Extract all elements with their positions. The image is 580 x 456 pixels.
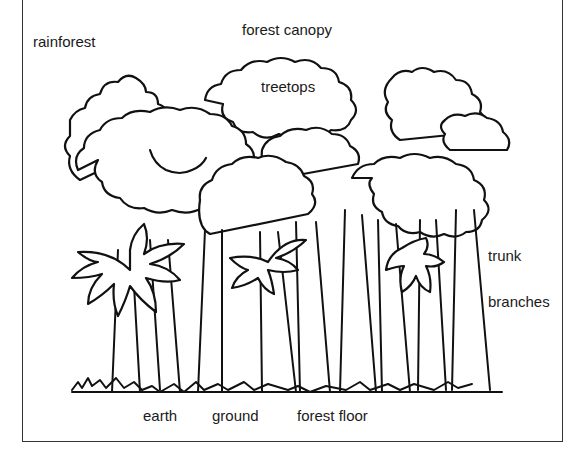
palm-leaves [72, 224, 444, 316]
label-forest-floor: forest floor [297, 408, 368, 423]
label-earth: earth [143, 408, 177, 423]
label-treetops: treetops [261, 79, 315, 94]
label-rainforest: rainforest [33, 34, 96, 49]
label-trunk: trunk [488, 248, 521, 263]
label-ground: ground [212, 408, 259, 423]
label-branches: branches [488, 294, 550, 309]
label-forest-canopy: forest canopy [242, 22, 332, 37]
ground-grass [72, 378, 502, 392]
rainforest-illustration [0, 0, 580, 456]
